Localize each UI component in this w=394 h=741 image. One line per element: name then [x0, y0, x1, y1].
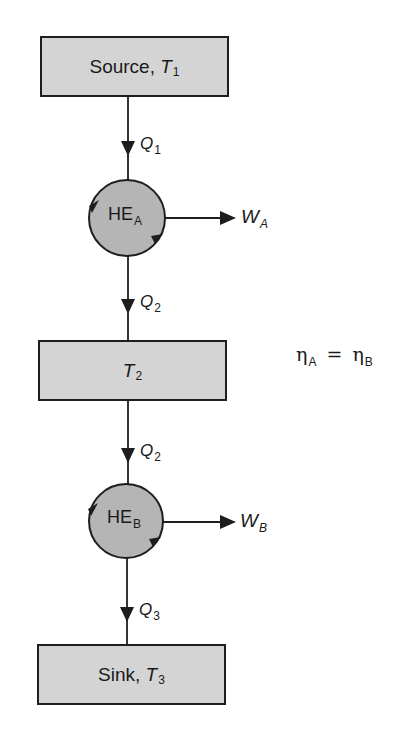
- heat-flow-q3-arrow: [120, 558, 134, 645]
- heat-engine-a-label: HEA: [95, 204, 155, 225]
- sink-temperature-subscript: 3: [158, 673, 165, 687]
- work-output-a-arrow: [165, 211, 236, 225]
- sink-temperature-symbol: T: [146, 664, 158, 686]
- heat-flow-q2-lower-arrow: [121, 399, 135, 484]
- heat-flow-q1-arrow: [121, 96, 135, 181]
- heat-flow-q1-label: Q1: [140, 134, 161, 154]
- heat-engine-b-label: HEB: [94, 507, 154, 528]
- heat-flow-q3-label: Q3: [139, 600, 160, 620]
- efficiency-b-symbol: η: [352, 343, 363, 365]
- source-temperature-subscript: 1: [173, 65, 180, 79]
- efficiency-a-subscript: A: [308, 355, 316, 369]
- source-label: Source,: [89, 56, 160, 78]
- heat-flow-q2-upper-arrow: [121, 256, 135, 341]
- work-output-a-label: WA: [241, 206, 268, 228]
- heat-flow-q2-upper-label: Q2: [140, 292, 161, 312]
- intermediate-temperature-symbol: T: [123, 360, 135, 382]
- intermediate-reservoir: T2: [38, 340, 227, 401]
- sink-reservoir: Sink, T3: [37, 644, 226, 705]
- intermediate-temperature-subscript: 2: [135, 369, 142, 383]
- efficiency-b-subscript: B: [365, 355, 373, 369]
- source-reservoir: Source, T1: [40, 36, 229, 97]
- efficiency-a-symbol: η: [296, 343, 307, 365]
- sink-label: Sink,: [98, 664, 146, 686]
- source-temperature-symbol: T: [160, 56, 172, 78]
- heat-flow-q2-lower-label: Q2: [140, 441, 161, 461]
- work-output-b-label: WB: [240, 510, 267, 532]
- equals-sign: =: [326, 343, 342, 365]
- work-output-b-arrow: [163, 515, 236, 529]
- efficiency-equation: ηA = ηB: [296, 343, 373, 365]
